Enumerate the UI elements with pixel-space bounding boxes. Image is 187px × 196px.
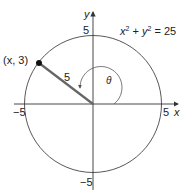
unit-circle-diagram: (x, 3) 5 θ y 5 −5 −5 5 x x2 + y2 = 25: [0, 0, 187, 196]
circle-equation: x2 + y2 = 25: [119, 25, 176, 37]
y-pos-tick: 5: [83, 24, 89, 36]
y-neg-tick: −5: [80, 176, 93, 188]
point-marker: [36, 60, 42, 66]
y-axis-label: y: [83, 8, 91, 20]
x-pos-tick: 5: [163, 106, 169, 118]
x-axis-label: x: [173, 106, 180, 118]
angle-label: θ: [106, 75, 112, 86]
x-neg-tick: −5: [13, 106, 26, 118]
radius-line: [39, 63, 93, 104]
radius-label: 5: [64, 71, 70, 83]
point-label: (x, 3): [3, 54, 28, 66]
